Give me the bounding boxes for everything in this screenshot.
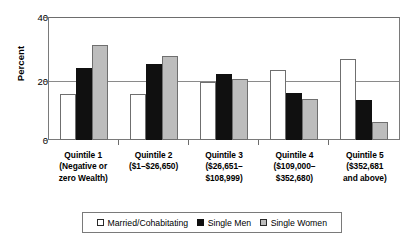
bar	[356, 100, 372, 140]
bar-group	[259, 18, 329, 140]
y-tick-mark-0	[44, 140, 48, 141]
category-label-line: ($352,681	[330, 161, 400, 172]
bar-group	[189, 18, 259, 140]
y-tick-label-0: 0	[8, 136, 48, 145]
bar	[232, 79, 248, 140]
bar	[130, 94, 146, 140]
white-square-icon	[97, 219, 104, 226]
bar	[286, 93, 302, 140]
category-label-line: ($1–$26,650)	[118, 161, 188, 172]
bar	[372, 122, 388, 140]
black-square-icon	[197, 219, 204, 226]
bar	[270, 70, 286, 140]
x-axis-separator	[328, 140, 329, 145]
bar	[76, 68, 92, 140]
bar-group	[49, 18, 119, 140]
bars-layer	[49, 18, 399, 140]
category-label-line: and above)	[330, 173, 400, 184]
x-axis-category-labels: Quintile 1(Negative orzero Wealth)Quinti…	[48, 150, 400, 198]
category-label-line: zero Wealth)	[48, 173, 118, 184]
y-tick-label-20: 20	[8, 77, 48, 86]
category-label-line: (Negative or	[48, 161, 118, 172]
legend-item[interactable]: Single Women	[260, 218, 327, 228]
legend-item[interactable]: Single Men	[197, 218, 251, 228]
category-label-line: Quintile 3	[189, 150, 259, 161]
x-axis-separator	[188, 140, 189, 145]
bar	[200, 82, 216, 140]
x-axis-category-label: Quintile 3($26,651–$108,999)	[189, 150, 259, 198]
bar-chart-figure: Percent 40 20 0 Quintile 1(Negative orze…	[0, 0, 417, 248]
bar-group	[329, 18, 399, 140]
legend-item-label: Single Men	[208, 218, 251, 228]
bar	[146, 64, 162, 140]
x-axis-separator	[118, 140, 119, 145]
bar	[340, 59, 356, 140]
category-label-line: ($26,651–	[189, 161, 259, 172]
bar	[216, 74, 232, 140]
bar-group	[119, 18, 189, 140]
bar	[162, 56, 178, 140]
x-axis-category-label: Quintile 2($1–$26,650)	[118, 150, 188, 198]
x-axis-category-label: Quintile 4($109,000–$352,680)	[259, 150, 329, 198]
legend-item-label: Single Women	[271, 218, 327, 228]
category-label-line: Quintile 4	[259, 150, 329, 161]
bar	[60, 94, 76, 140]
category-label-line: Quintile 5	[330, 150, 400, 161]
bar	[92, 45, 108, 140]
legend-item-label: Married/Cohabitating	[108, 218, 189, 228]
gray-square-icon	[260, 219, 267, 226]
bar	[302, 99, 318, 140]
legend-item[interactable]: Married/Cohabitating	[97, 218, 188, 228]
y-axis-title: Percent	[15, 24, 26, 104]
y-tick-label-40: 40	[8, 13, 48, 22]
chart-legend: Married/CohabitatingSingle MenSingle Wom…	[82, 212, 342, 233]
x-axis-category-label: Quintile 1(Negative orzero Wealth)	[48, 150, 118, 198]
category-label-line: Quintile 2	[118, 150, 188, 161]
category-label-line: $108,999)	[189, 173, 259, 184]
x-axis-separator	[258, 140, 259, 145]
category-label-line: Quintile 1	[48, 150, 118, 161]
category-label-line: $352,680)	[259, 173, 329, 184]
x-axis-category-label: Quintile 5($352,681and above)	[330, 150, 400, 198]
category-label-line: ($109,000–	[259, 161, 329, 172]
